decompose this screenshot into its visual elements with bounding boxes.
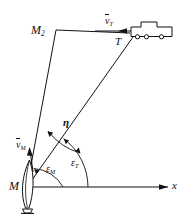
arrow-up-icon — [27, 147, 33, 156]
x-axis — [27, 184, 168, 190]
missile-launcher-icon — [21, 160, 34, 213]
label-axis-x: x — [172, 180, 177, 191]
label-angle-eps-target: εT — [71, 158, 78, 169]
truck-icon — [131, 22, 172, 39]
target-velocity-vector — [95, 28, 131, 34]
missile-geometry-diagram: M2 M T x vT vM η εM εT — [0, 0, 186, 216]
label-missile-velocity: vM — [16, 140, 26, 151]
label-target-velocity: vT — [105, 16, 113, 27]
label-target-point-T: T — [115, 36, 121, 47]
line-of-sight-M-to-T — [27, 37, 133, 187]
label-missile-position-2: M2 — [31, 24, 45, 38]
arrow-right-icon — [159, 184, 168, 190]
arc-eps-target-arrowhead — [64, 139, 69, 144]
launcher-base — [23, 209, 33, 213]
truck-wheel-mid — [144, 35, 148, 39]
label-angle-eps-missile: εM — [46, 164, 55, 175]
diagram-canvas — [0, 0, 186, 216]
truck-wheel-rear — [159, 35, 163, 39]
engagement-triangle — [27, 30, 133, 187]
truck-wheel-front — [135, 35, 139, 39]
label-launcher-point-M: M — [9, 180, 19, 192]
label-angle-eta: η — [63, 117, 69, 128]
